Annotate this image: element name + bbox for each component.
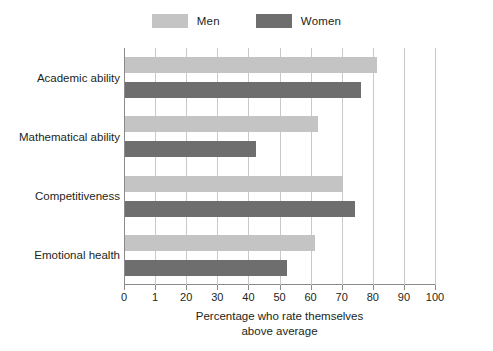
x-tick-70 bbox=[342, 285, 343, 290]
gridline-80 bbox=[373, 48, 374, 285]
bar-women-mathematical-ability bbox=[125, 141, 256, 157]
bar-women-competitiveness bbox=[125, 201, 355, 217]
legend-entry-women: Women bbox=[256, 14, 341, 28]
bar-men-competitiveness bbox=[125, 176, 343, 192]
x-tick-40 bbox=[248, 285, 249, 290]
x-tick-90 bbox=[404, 285, 405, 290]
x-tick-label-70: 70 bbox=[336, 291, 348, 303]
bar-men-mathematical-ability bbox=[125, 116, 318, 132]
x-tick-label-0: 0 bbox=[121, 291, 127, 303]
plot-area: 012030405060708090100 bbox=[124, 48, 435, 285]
x-tick-60 bbox=[311, 285, 312, 290]
y-axis-label-academic-ability: Academic ability bbox=[4, 72, 120, 84]
x-tick-10 bbox=[155, 285, 156, 290]
gridline-90 bbox=[404, 48, 405, 285]
y-axis-label-competitiveness: Competitiveness bbox=[4, 190, 120, 202]
x-tick-label-30: 30 bbox=[211, 291, 223, 303]
x-tick-label-20: 20 bbox=[180, 291, 192, 303]
gridline-100 bbox=[435, 48, 436, 285]
y-axis-label-mathematical-ability: Mathematical ability bbox=[4, 131, 120, 143]
x-tick-label-40: 40 bbox=[242, 291, 254, 303]
x-tick-label-90: 90 bbox=[398, 291, 410, 303]
x-tick-label-80: 80 bbox=[367, 291, 379, 303]
bar-women-academic-ability bbox=[125, 82, 361, 98]
legend-entry-men: Men bbox=[152, 14, 220, 28]
x-tick-label-60: 60 bbox=[304, 291, 316, 303]
bar-men-academic-ability bbox=[125, 57, 377, 73]
x-tick-label-100: 100 bbox=[426, 291, 444, 303]
x-tick-0 bbox=[124, 285, 125, 290]
x-tick-80 bbox=[373, 285, 374, 290]
x-tick-label-50: 50 bbox=[273, 291, 285, 303]
x-tick-50 bbox=[280, 285, 281, 290]
legend-swatch-women bbox=[256, 14, 292, 28]
legend-label-men: Men bbox=[197, 15, 220, 27]
x-axis-title: Percentage who rate themselves above ave… bbox=[124, 309, 435, 339]
x-tick-20 bbox=[186, 285, 187, 290]
x-tick-100 bbox=[435, 285, 436, 290]
x-axis-title-line-1: Percentage who rate themselves bbox=[124, 309, 435, 324]
bar-men-emotional-health bbox=[125, 235, 315, 251]
bar-women-emotional-health bbox=[125, 260, 287, 276]
bar-chart-figure: Men Women Academic abilityMathematical a… bbox=[0, 0, 493, 351]
x-tick-label-10: 1 bbox=[152, 291, 158, 303]
legend-label-women: Women bbox=[301, 15, 341, 27]
x-tick-30 bbox=[217, 285, 218, 290]
y-axis-label-emotional-health: Emotional health bbox=[4, 249, 120, 261]
x-axis-title-line-2: above average bbox=[124, 324, 435, 339]
legend-swatch-men bbox=[152, 14, 188, 28]
chart-legend: Men Women bbox=[0, 14, 493, 28]
